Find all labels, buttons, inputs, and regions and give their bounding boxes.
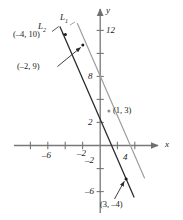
y-tick-label-12: 12 [106,25,115,35]
x-axis-label: x [165,139,169,149]
leader-3-neg4 [115,181,125,199]
line-label-L1-sub: 1 [65,18,68,24]
leader-L1 [70,22,75,25]
point-label-neg4-10: (–4, 10) [13,29,40,39]
x-axis [14,142,158,149]
leader-neg4-10 [62,34,64,35]
x-tick-label-neg2: –2 [77,148,86,158]
point-marker-1-3 [107,109,110,112]
x-tick-label-neg6: –6 [42,150,51,160]
y-tick-label-neg2: –2 [85,155,94,165]
leader-neg2-9 [58,48,81,67]
point-marker-neg4-10 [64,33,67,36]
y-tick-label-2: 2 [88,117,93,127]
x-tick-label-4: 4 [123,152,128,162]
y-tick-label-8: 8 [88,71,93,81]
point-label-1-3: (1, 3) [113,105,131,115]
point-label-3-neg4: (3, –4) [100,199,123,209]
point-label-neg2-9: (–2, 9) [17,61,40,71]
leader-L2 [52,27,59,32]
line-label-L2-sub: 2 [43,27,46,33]
point-marker-3-neg4 [125,177,128,180]
y-axis-label: y [106,5,110,15]
point-marker-neg2-9 [81,44,84,47]
line-label-L1: L1 [60,12,68,24]
y-axis [97,9,104,213]
y-tick-label-neg6: –6 [85,186,94,196]
coordinate-graph-figure: x y 12 8 2 –2 –6 –6 –2 4 L1 L2 (–4, 10) … [0,0,183,220]
